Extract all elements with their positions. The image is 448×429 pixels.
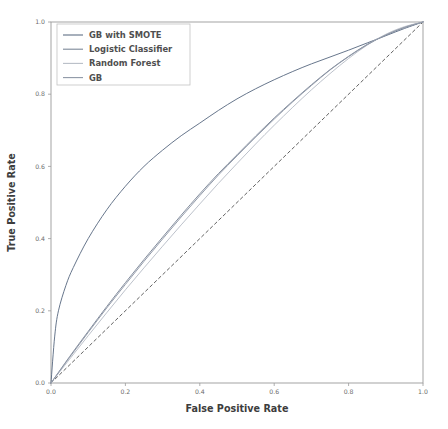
- y-tick-label: 1.0: [35, 18, 45, 25]
- legend-label-0: GB with SMOTE: [89, 30, 162, 40]
- x-tick-label: 0.4: [195, 388, 205, 395]
- y-tick-label: 0.6: [35, 163, 45, 170]
- y-tick-label: 0.0: [35, 379, 45, 386]
- legend-label-3: GB: [89, 73, 102, 83]
- x-tick-label: 0.8: [344, 388, 354, 395]
- legend-label-2: Random Forest: [89, 58, 160, 68]
- x-tick-label: 0.6: [269, 388, 279, 395]
- x-tick-label: 0.0: [46, 388, 56, 395]
- y-tick-label: 0.4: [35, 235, 45, 242]
- y-axis-title: True Positive Rate: [6, 153, 17, 252]
- roc-curve-figure: 0.00.20.40.60.81.00.00.20.40.60.81.0Fals…: [0, 0, 448, 429]
- x-axis-title: False Positive Rate: [186, 403, 289, 414]
- x-tick-label: 1.0: [418, 388, 428, 395]
- legend-label-1: Logistic Classifier: [89, 44, 173, 54]
- y-tick-label: 0.8: [35, 90, 45, 97]
- x-tick-label: 0.2: [120, 388, 130, 395]
- roc-plot-svg: 0.00.20.40.60.81.00.00.20.40.60.81.0Fals…: [0, 0, 448, 429]
- y-tick-label: 0.2: [35, 307, 45, 314]
